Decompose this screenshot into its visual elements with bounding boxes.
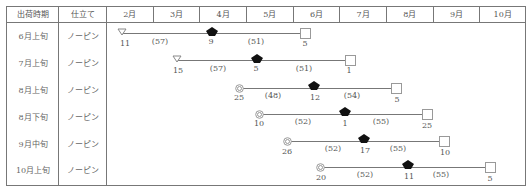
days-gap: (55) (390, 144, 406, 153)
square-icon (391, 83, 402, 94)
filled-diamond-icon (251, 54, 263, 64)
square-icon (485, 162, 496, 173)
row-method: ノーピン (59, 138, 107, 149)
mid-date: 1 (342, 119, 347, 128)
double-circle-icon (255, 110, 264, 119)
row-method: ノーピン (59, 57, 107, 68)
header-month: 3月 (154, 7, 201, 22)
header-row: 出荷時期 仕立て 2月 3月 4月 5月 6月 7月 8月 9月 10月 (7, 7, 525, 23)
filled-diamond-icon (358, 134, 370, 144)
header-month: 5月 (247, 7, 294, 22)
header-month: 8月 (387, 7, 434, 22)
days-gap: (51) (296, 64, 312, 73)
row-period: 8月上旬 (7, 84, 59, 95)
header-month: 9月 (434, 7, 481, 22)
column-divider (106, 22, 107, 185)
days-gap: (52) (357, 170, 373, 179)
row-method: ノーピン (59, 111, 107, 122)
header-month: 10月 (480, 7, 525, 22)
start-date: 11 (120, 39, 130, 48)
row-period: 8月下旬 (7, 111, 59, 122)
row-period: 7月上旬 (7, 57, 59, 68)
filled-diamond-icon (402, 160, 414, 170)
filled-diamond-icon (339, 107, 351, 117)
row-period: 9月中旬 (7, 138, 59, 149)
square-icon (439, 136, 450, 147)
filled-diamond-icon (206, 27, 218, 37)
days-gap: (57) (210, 64, 226, 73)
square-icon (345, 55, 356, 66)
square-icon (300, 28, 311, 39)
end-date: 5 (302, 39, 307, 48)
mid-date: 5 (253, 64, 258, 73)
start-date: 25 (234, 93, 244, 102)
mid-date: 9 (208, 37, 213, 46)
row-method: ノーピン (59, 30, 107, 41)
header-month: 6月 (294, 7, 341, 22)
double-circle-icon (235, 84, 244, 93)
days-gap: (55) (373, 117, 389, 126)
end-date: 5 (487, 174, 492, 183)
column-divider (58, 22, 59, 185)
end-date: 25 (422, 121, 432, 130)
header-month: 2月 (107, 7, 154, 22)
header-method: 仕立て (59, 7, 107, 22)
square-icon (422, 109, 433, 120)
end-date: 5 (394, 95, 399, 104)
start-date: 26 (282, 147, 292, 156)
days-gap: (54) (344, 91, 360, 100)
days-gap: (57) (152, 37, 168, 46)
double-circle-icon (316, 163, 325, 172)
end-date: 1 (346, 66, 351, 75)
mid-date: 11 (404, 172, 414, 181)
row-period: 6月上旬 (7, 30, 59, 41)
double-circle-icon (283, 137, 292, 146)
mid-date: 12 (310, 93, 320, 102)
triangle-down-icon (172, 55, 182, 63)
row-method: ノーピン (59, 84, 107, 95)
days-gap: (48) (265, 91, 281, 100)
header-month: 7月 (340, 7, 387, 22)
start-date: 15 (173, 66, 183, 75)
days-gap: (52) (325, 144, 341, 153)
row-period: 10月上旬 (7, 164, 59, 175)
header-period: 出荷時期 (7, 7, 59, 22)
triangle-down-icon (117, 28, 127, 36)
start-date: 10 (254, 119, 264, 128)
end-date: 10 (440, 148, 450, 157)
filled-diamond-icon (308, 81, 320, 91)
row-method: ノーピン (59, 164, 107, 175)
days-gap: (55) (433, 170, 449, 179)
header-month: 4月 (200, 7, 247, 22)
mid-date: 17 (360, 146, 370, 155)
start-date: 20 (316, 173, 326, 182)
days-gap: (51) (248, 37, 264, 46)
days-gap: (52) (295, 117, 311, 126)
